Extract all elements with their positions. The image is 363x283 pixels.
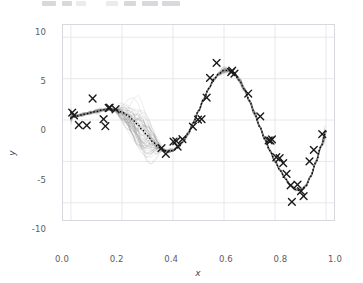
x-tick-label: 0.0: [55, 254, 69, 264]
y-tick-label: -5: [24, 175, 46, 185]
x-axis-label: x: [195, 268, 200, 278]
x-tick-label: 0.2: [110, 254, 124, 264]
observation-marker: [83, 122, 90, 129]
plot-canvas: [62, 24, 335, 221]
toolbar-icon-home[interactable]: [42, 1, 56, 6]
plot-area[interactable]: [62, 24, 335, 221]
observation-marker: [294, 181, 301, 188]
observation-marker: [213, 60, 220, 67]
x-tick-label: 1.0: [328, 254, 342, 264]
x-tick-label: 0.4: [164, 254, 178, 264]
toolbar-icon-save[interactable]: [162, 1, 180, 6]
toolbar-icon-pan[interactable]: [106, 1, 118, 6]
observation-marker: [102, 123, 109, 130]
observation-marker: [288, 199, 295, 206]
observation-marker: [310, 146, 317, 153]
observation-marker: [89, 95, 96, 102]
y-tick-label: 5: [26, 76, 46, 86]
y-tick-label: -10: [21, 224, 46, 234]
toolbar-icon-forward[interactable]: [76, 1, 86, 6]
chart-figure: y x 10 5 0 -5 -10 0.0 0.2 0.4 0.6 0.8 1.…: [0, 8, 363, 283]
y-tick-label: 10: [26, 27, 46, 37]
x-tick-label: 0.8: [273, 254, 287, 264]
toolbar-icon-back[interactable]: [62, 1, 72, 6]
observation-markers: [69, 60, 326, 206]
observation-marker: [75, 122, 82, 129]
observation-marker: [257, 113, 264, 120]
toolbar-icon-configure[interactable]: [142, 1, 158, 6]
observation-marker: [283, 170, 290, 177]
x-tick-label: 0.6: [219, 254, 233, 264]
observation-marker: [100, 116, 107, 123]
toolbar-sliver: [0, 0, 363, 8]
observation-marker: [207, 74, 214, 81]
toolbar-icon-zoom[interactable]: [124, 1, 136, 6]
y-axis-label: y: [7, 150, 17, 155]
y-tick-label: 0: [26, 125, 46, 135]
